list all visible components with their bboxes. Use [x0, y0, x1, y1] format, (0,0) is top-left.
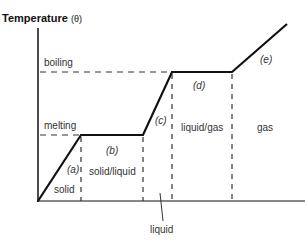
y-axis-title: Temperature (θ) [2, 12, 82, 24]
liquid-pointer-line [160, 193, 163, 221]
heating-curve-diagram: Temperature (θ) boiling melting (a) soli… [0, 0, 305, 243]
segment-e-label: (e) [260, 55, 272, 65]
phase-liquid-gas-label: liquid/gas [181, 123, 223, 133]
phase-solid-label: solid [54, 185, 75, 195]
phase-gas-label: gas [257, 123, 273, 133]
phase-liquid-label: liquid [150, 225, 173, 235]
segment-c-label: (c) [155, 116, 167, 126]
segment-b-label: (b) [106, 146, 118, 156]
theta-symbol: (θ) [71, 14, 82, 24]
segment-a-label: (a) [67, 165, 79, 175]
melting-label: melting [44, 121, 76, 131]
segment-d-label: (d) [193, 81, 205, 91]
y-axis-title-text: Temperature [2, 12, 68, 24]
boiling-label: boiling [44, 58, 73, 68]
phase-solid-liquid-label: solid/liquid [89, 167, 136, 177]
